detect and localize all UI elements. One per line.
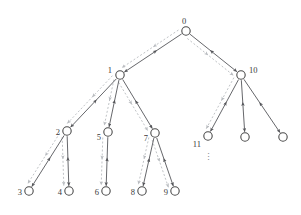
dashed-edge-0-10 [187,38,233,75]
tree-node-label-8: 8 [131,187,135,197]
edge-1-2 [71,79,117,127]
vertical-ellipsis-icon: ⋮ [204,152,213,162]
edge-7-8 [143,138,154,186]
tree-node-u1[interactable] [241,133,249,141]
dashed-edge-0-1 [122,30,179,68]
tree-node-9[interactable] [171,187,179,195]
edge-5-6 [106,137,108,186]
dashed-edge-1-7 [119,82,148,130]
tree-node-label-6: 6 [95,187,99,197]
edge-10-u1 [241,80,244,132]
tree-node-label-2: 2 [56,127,60,137]
tree-node-5[interactable] [104,128,112,136]
tree-node-1[interactable] [116,71,124,79]
label-layer: 01102571134689 [18,16,258,197]
tree-node-label-3: 3 [18,187,22,197]
tree-node-3[interactable] [25,187,33,195]
tree-node-11[interactable] [204,132,212,140]
dashed-edge-2-3 [28,133,60,183]
dashed-edge-5-6 [101,138,103,186]
ellipsis-layer: ⋮ [204,152,213,162]
tree-node-label-4: 4 [58,187,63,197]
tree-node-label-1: 1 [108,65,112,75]
tree-node-0[interactable] [182,27,190,35]
edge-1-5 [109,80,119,127]
tree-node-label-0: 0 [182,16,186,26]
tree-node-8[interactable] [138,187,146,195]
tree-node-label-5: 5 [97,132,101,142]
tree-node-u2[interactable] [279,133,287,141]
tree-node-2[interactable] [63,127,71,135]
tree-diagram-canvas: 01102571134689 ⋮ [0,0,301,215]
tree-diagram-svg: 01102571134689 ⋮ [0,0,301,215]
tree-node-6[interactable] [102,187,110,195]
tree-node-label-7: 7 [144,133,148,143]
tree-node-label-11: 11 [193,139,201,149]
edge-0-10 [190,34,237,72]
edge-0-1 [124,34,181,72]
dashed-edge-1-2 [67,76,112,124]
tree-node-label-10: 10 [249,65,258,75]
node-layer [25,27,287,195]
edge-10-11 [210,80,238,132]
dashed-edge-10-11 [206,78,234,129]
tree-node-label-9: 9 [164,187,168,197]
solid-edge-layer [32,34,280,187]
dashed-edge-7-8 [138,137,149,184]
edge-2-3 [32,135,64,186]
tree-node-10[interactable] [237,71,245,79]
tree-node-7[interactable] [151,129,159,137]
edge-2-4 [67,136,69,186]
edge-7-9 [157,138,174,186]
edge-1-7 [123,79,153,128]
dashed-edge-layer [28,30,234,187]
dashed-edge-2-4 [62,137,64,186]
tree-node-4[interactable] [65,187,73,195]
edge-10-u2 [244,79,280,132]
